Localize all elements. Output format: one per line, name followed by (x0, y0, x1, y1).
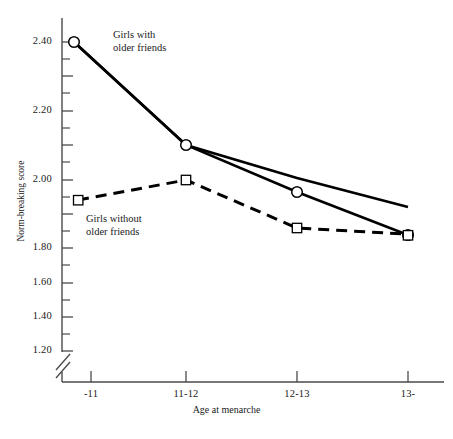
data-point-marker (69, 37, 79, 47)
axis-break-mark-upper (56, 354, 70, 370)
series-markers-with-older-friends-top (69, 37, 413, 240)
y-axis-title: Norm-breaking score (16, 136, 26, 266)
data-point-marker (74, 196, 83, 205)
y-tick-label-140: 1.40 (18, 310, 52, 321)
y-tick-label-160: 1.60 (18, 276, 52, 287)
axis-break-mark-lower (56, 362, 70, 378)
x-axis-title: Age at menarche (0, 404, 453, 415)
y-minor-ticks (62, 59, 70, 334)
norm-breaking-score-chart: 2.40 2.20 2.00 1.80 1.60 1.40 1.20 -11 1… (0, 0, 453, 439)
y-tick-label-120: 1.20 (18, 344, 52, 355)
x-tick-label-1: 11-12 (156, 388, 216, 399)
data-point-marker (181, 175, 190, 184)
series-markers-with-older-friends (69, 37, 413, 240)
data-point-marker (181, 140, 191, 150)
series-line-with-older-friends-overlay (74, 42, 408, 235)
annotation-line-1: Girls with (113, 28, 166, 41)
x-tick-label-3: 13- (378, 388, 438, 399)
annotation-line-1: Girls without (86, 212, 142, 225)
plot-area (0, 0, 453, 439)
x-ticks (91, 371, 408, 382)
data-point-marker (403, 231, 412, 240)
x-tick-label-2: 12-13 (267, 388, 327, 399)
annotation-girls-with-older-friends: Girls with older friends (113, 28, 166, 54)
series-line-with-older-friends (74, 42, 408, 207)
annotation-girls-without-older-friends: Girls without older friends (86, 212, 142, 238)
y-tick-label-240: 2.40 (18, 35, 52, 46)
data-point-marker (292, 187, 302, 197)
data-point-marker (292, 223, 301, 232)
annotation-line-2: older friends (86, 225, 142, 238)
y-tick-label-220: 2.20 (18, 104, 52, 115)
annotation-line-2: older friends (113, 41, 166, 54)
x-tick-label-0: -11 (61, 388, 121, 399)
